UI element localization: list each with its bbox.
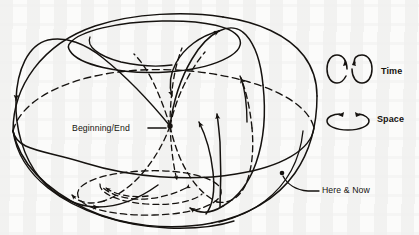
spacetime-torus-diagram [0,0,419,235]
here-now-leader [283,176,319,191]
label-beginning-end: Beginning/End [72,123,130,133]
figure-canvas: Beginning/End Here & Now Time Space [0,0,419,235]
label-here-now: Here & Now [322,185,370,195]
legend-label-time: Time [381,66,402,76]
here-now-node [280,171,285,176]
top-hole-ellipse [69,21,241,73]
legend-space-icon [327,112,369,130]
equator-ellipse [13,70,314,178]
legend-label-space: Space [377,114,404,124]
trajectory-through-top-hole [170,28,263,126]
legend-time-icon [327,55,372,83]
beginning-end-node [167,123,172,128]
